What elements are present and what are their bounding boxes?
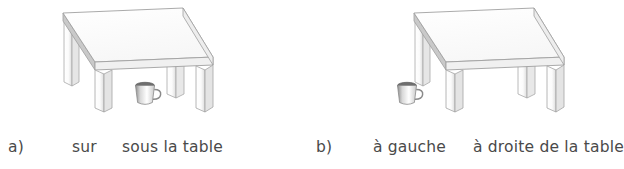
table-leg-front-left-b — [446, 70, 463, 112]
figure-label-b: b) — [316, 132, 332, 162]
figure-label-a: a) — [8, 132, 24, 162]
caption-b: b) à gauche à droite de la table — [309, 118, 619, 169]
cup-under-table-a — [136, 82, 161, 104]
scene-a-table-with-cup-underneath — [0, 0, 310, 120]
figure-b: b) à gauche à droite de la table — [309, 0, 619, 169]
table-illustration-a — [0, 0, 310, 120]
term-a-sur: sur — [72, 132, 97, 162]
table-leg-front-left-a — [95, 70, 112, 112]
term-b-a-droite-de-la-table: à droite de la table — [473, 132, 624, 162]
caption-a: a) sur sous la table — [0, 118, 310, 169]
table-illustration-b — [309, 0, 619, 120]
figure-a: a) sur sous la table — [0, 0, 310, 169]
table-leg-back-right-a — [167, 62, 184, 98]
table-group-b — [414, 8, 564, 112]
table-leg-front-right-a — [196, 65, 213, 112]
cup-body-a — [136, 86, 155, 105]
table-leg-front-right-b — [547, 65, 564, 112]
term-a-sous-la-table: sous la table — [122, 132, 223, 162]
table-leg-back-right-b — [518, 62, 535, 98]
term-b-a-gauche: à gauche — [373, 132, 446, 162]
cup-left-of-table-b — [398, 82, 423, 104]
scene-b-table-with-cup-to-the-left — [309, 0, 619, 120]
cup-body-b — [398, 86, 417, 105]
